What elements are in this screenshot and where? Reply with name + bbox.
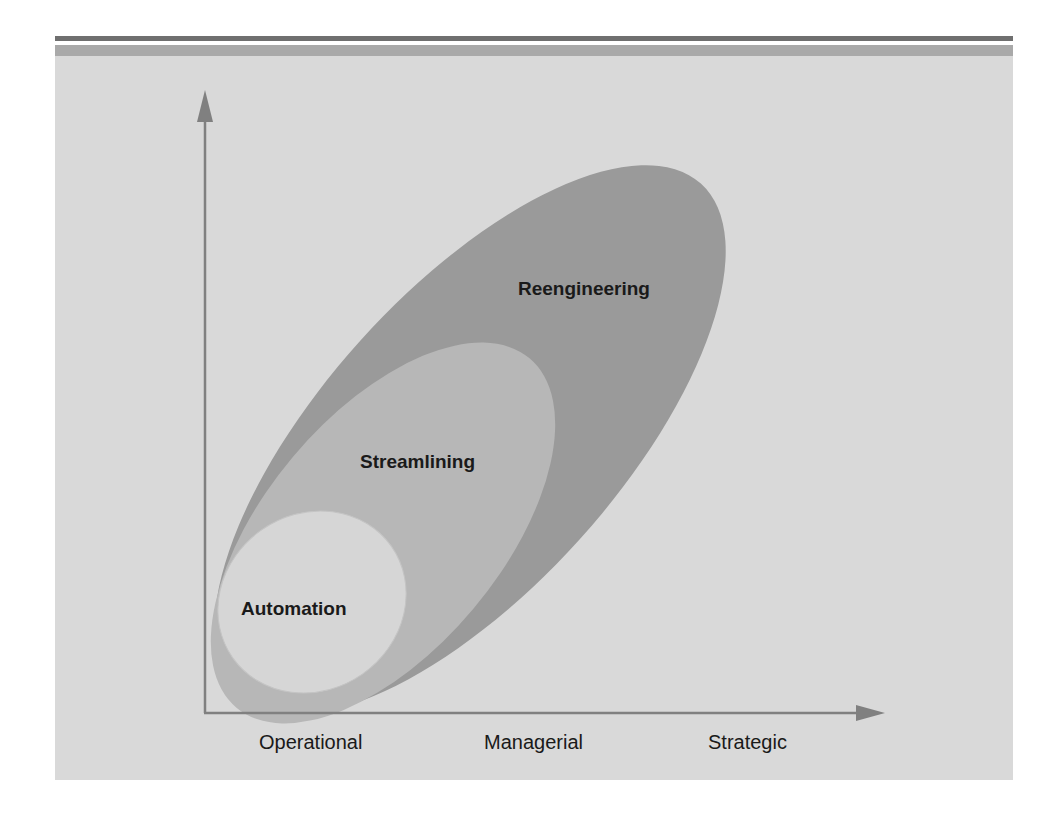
- automation-label: Automation: [241, 598, 347, 620]
- x-axis-label-strategic: Strategic: [708, 731, 787, 754]
- diagram-canvas: [0, 0, 1060, 821]
- x-axis-label-operational: Operational: [259, 731, 362, 754]
- y-axis-arrow-icon: [197, 90, 213, 122]
- reengineering-label: Reengineering: [518, 278, 650, 300]
- streamlining-label: Streamlining: [360, 451, 475, 473]
- x-axis-arrow-icon: [856, 705, 885, 721]
- x-axis-label-managerial: Managerial: [484, 731, 583, 754]
